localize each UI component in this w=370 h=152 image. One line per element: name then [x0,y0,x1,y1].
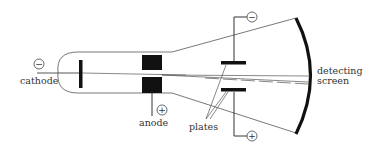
plates-label: plates [189,121,218,132]
top-deflection-plate [221,61,246,65]
svg-text:−: − [248,12,256,22]
screen-label-line2: screen [317,75,349,86]
anode-label: anode [139,117,169,128]
plates-pointers [206,65,228,119]
svg-text:+: + [158,105,166,115]
beam-paths [162,75,310,84]
svg-text:−: − [35,59,43,69]
cathode-plate [79,60,83,88]
cathode-label: cathode [20,75,59,86]
anode-polarity: + [157,105,167,115]
bottom-plate-polarity: + [247,131,257,141]
anode-top-block [142,55,162,70]
top-plate-polarity: − [247,12,257,22]
bottom-deflection-plate [221,88,246,92]
svg-text:+: + [248,131,256,141]
top-plate-lead [234,17,251,61]
cathode-ray-tube-diagram: − + − + cathode anode plates detecting s… [0,0,370,152]
cathode-polarity: − [34,59,44,69]
anode-bottom-block [142,77,162,93]
electron-beam [82,73,186,75]
